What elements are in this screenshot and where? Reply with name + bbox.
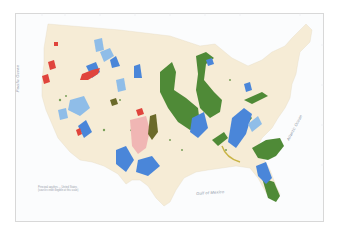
source-note-line-2: (source credit illegible at this scale) — [38, 189, 118, 192]
us-aquifer-map — [0, 0, 342, 233]
pacific-ocean-label: Pacific Ocean — [15, 65, 20, 92]
map-source-note: Principal aquifers ... United States (so… — [38, 186, 118, 193]
